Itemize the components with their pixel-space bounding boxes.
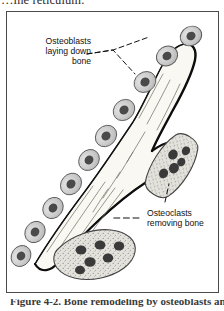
label-osteoclasts-removing-bone: Osteoclasts removing bone	[147, 208, 219, 228]
osteoblast	[39, 193, 68, 222]
osteoblast	[21, 217, 50, 246]
figure-frame: Osteoblasts laying down bone Osteoclasts…	[6, 11, 219, 293]
osteoblast	[7, 242, 35, 271]
figure-caption-line: Figure 4-2. Bone remodeling by osteoblas…	[10, 299, 224, 307]
running-text-top-line: …ine reticulum.	[1, 0, 84, 8]
running-text-top: …ine reticulum.	[0, 0, 224, 9]
figure-caption: Figure 4-2. Bone remodeling by osteoblas…	[0, 299, 224, 311]
osteoblast	[56, 169, 86, 199]
leader-osteoblasts-upper	[87, 37, 149, 54]
leader-osteoblasts-lower	[87, 50, 135, 74]
label-osteoblasts-laying-down-bone: Osteoblasts laying down bone	[15, 36, 91, 67]
